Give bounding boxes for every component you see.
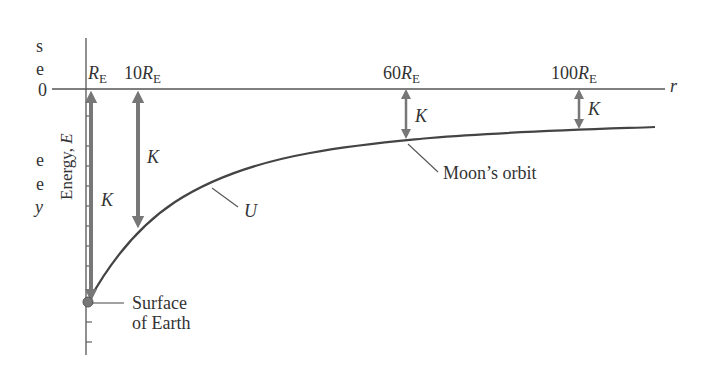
u-label: U: [244, 201, 258, 221]
u-leader-line: [212, 188, 238, 207]
x-axis-label: r: [670, 76, 678, 96]
k-label: K: [587, 99, 601, 119]
tick-label-re: RE: [87, 63, 107, 86]
moon-orbit-label: Moon’s orbit: [443, 163, 537, 183]
moon-leader-line: [408, 144, 438, 172]
x-tick-labels: RE 10RE 60RE 100RE: [87, 63, 597, 86]
k-label: K: [414, 106, 428, 126]
energy-diagram: s e e e y 0 r Energy, E RE 10RE 60RE 100…: [0, 0, 704, 375]
margin-fragment: y: [33, 197, 43, 217]
k-label: K: [146, 147, 160, 167]
y-axis-label: Energy, E: [57, 133, 76, 200]
tick-label-10re: 10RE: [124, 63, 161, 86]
k-label: K: [100, 190, 114, 210]
surface-label-line1: Surface: [132, 293, 187, 313]
margin-fragment: e: [36, 59, 44, 79]
tick-label-100re: 100RE: [551, 63, 597, 86]
surface-label-line2: of Earth: [132, 313, 190, 333]
earth-surface-dot: [83, 297, 93, 307]
potential-energy-curve: [88, 127, 655, 302]
margin-fragments: s e e e y: [33, 36, 44, 217]
k-labels: K K K K: [100, 99, 601, 210]
margin-fragment: s: [36, 36, 43, 56]
margin-fragment: e: [36, 174, 44, 194]
margin-fragment: e: [36, 150, 44, 170]
tick-label-60re: 60RE: [383, 63, 420, 86]
zero-label: 0: [38, 80, 47, 100]
